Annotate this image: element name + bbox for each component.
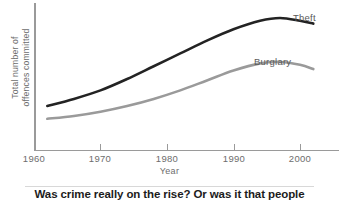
x-axis-title: Year xyxy=(0,166,339,176)
plot-area: 1960 1970 1980 1990 2000 Theft Burglary … xyxy=(0,0,339,175)
y-axis-title: Total number of offences committed xyxy=(10,9,31,127)
series-curves xyxy=(0,0,339,175)
y-axis-title-line2: offences committed xyxy=(20,9,31,127)
series-label-burglary: Burglary xyxy=(254,56,291,67)
y-axis-title-line1: Total number of xyxy=(10,9,21,127)
caption-strip: Was crime really on the rise? Or was it … xyxy=(0,186,339,201)
series-label-theft: Theft xyxy=(293,12,316,23)
caption-divider xyxy=(25,186,314,187)
burglary-line xyxy=(47,62,313,119)
caption-text: Was crime really on the rise? Or was it … xyxy=(0,188,339,200)
crime-offences-line-chart: 1960 1970 1980 1990 2000 Theft Burglary … xyxy=(0,0,339,201)
